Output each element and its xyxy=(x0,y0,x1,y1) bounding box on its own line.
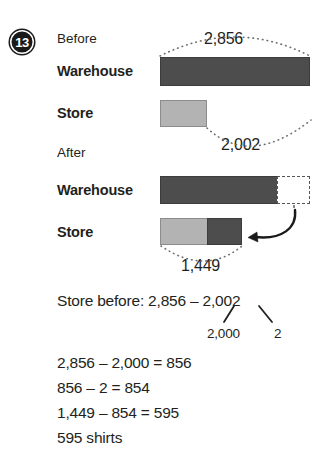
worksheet-page: 13 Before 2,856 Warehouse Store 2,002 Af… xyxy=(0,0,325,455)
after-store-bar-original xyxy=(160,218,208,245)
work-step-2: 856 – 2 = 854 xyxy=(57,380,150,396)
before-store-bar xyxy=(160,100,207,127)
work-line-store-before: Store before: 2,856 – 2,002 xyxy=(57,293,240,309)
before-warehouse-label: Warehouse xyxy=(57,64,133,79)
after-warehouse-bar-filled xyxy=(160,176,278,204)
number-bond-stroke-right xyxy=(259,306,272,322)
problem-number-label: 13 xyxy=(15,36,29,49)
after-store-bar-added xyxy=(207,218,242,245)
work-step-1: 2,856 – 2,000 = 856 xyxy=(57,355,192,371)
work-final-answer: 595 shirts xyxy=(57,430,122,446)
before-store-label: Store xyxy=(57,106,93,121)
number-bond-left-part: 2,000 xyxy=(207,327,240,341)
store-after-total-value: 1,449 xyxy=(181,258,220,274)
transfer-arrow-curve xyxy=(255,210,295,237)
after-section-label: After xyxy=(57,146,86,160)
after-store-label: Store xyxy=(57,225,93,240)
problem-number-badge: 13 xyxy=(10,30,34,54)
after-warehouse-bar-removed xyxy=(277,176,310,204)
after-warehouse-label: Warehouse xyxy=(57,183,133,198)
work-step-3: 1,449 – 854 = 595 xyxy=(57,405,179,421)
before-section-label: Before xyxy=(57,32,97,46)
number-bond-right-part: 2 xyxy=(274,327,281,341)
transfer-arrow-head xyxy=(248,232,258,242)
total-before-value: 2,856 xyxy=(204,31,243,47)
before-warehouse-bar xyxy=(160,57,310,86)
warehouse-before-value: 2,002 xyxy=(221,137,260,153)
